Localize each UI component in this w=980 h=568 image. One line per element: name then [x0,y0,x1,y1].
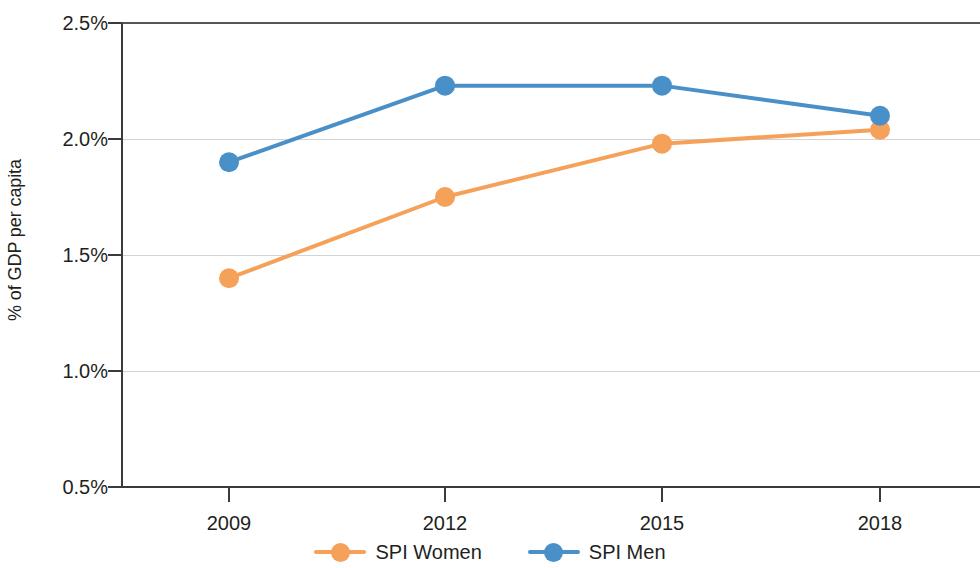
x-tick-mark [879,488,881,502]
legend-swatch-icon [314,542,366,562]
data-point-spi-women-2018 [870,120,890,140]
legend-item-spi-men[interactable]: SPI Men [528,542,666,562]
series-line-spi-men [229,86,880,163]
legend-label: SPI Women [375,542,481,562]
y-tick-mark [108,370,122,372]
data-point-spi-men-2015 [652,76,672,96]
plot-area [0,0,980,568]
y-tick-label: 1.0% [18,361,108,381]
gridline-1.5 [121,255,980,256]
legend-label: SPI Men [589,542,666,562]
gridline-2.5 [121,22,980,24]
x-tick-mark [228,488,230,502]
gridline-1.0 [121,371,980,372]
data-point-spi-men-2009 [219,152,239,172]
y-tick-label: 2.5% [18,13,108,33]
x-axis-line [121,486,980,488]
line-chart: % of GDP per capita 2.5%2.0%1.5%1.0%0.5%… [0,0,980,568]
gridline-2.0 [121,139,980,140]
data-point-spi-women-2012 [435,187,455,207]
x-tick-label: 2015 [602,513,722,533]
y-tick-label: 1.5% [18,245,108,265]
x-tick-label: 2009 [169,513,289,533]
y-tick-mark [108,22,122,24]
y-tick-mark [108,486,122,488]
x-tick-label: 2012 [385,513,505,533]
x-tick-mark [444,488,446,502]
data-point-spi-women-2009 [219,268,239,288]
y-axis-title-text: % of GDP per capita [5,159,26,321]
data-point-spi-men-2018 [870,106,890,126]
y-tick-mark [108,254,122,256]
data-point-spi-women-2015 [652,134,672,154]
data-point-spi-men-2012 [435,76,455,96]
legend-item-spi-women[interactable]: SPI Women [314,542,481,562]
chart-legend: SPI WomenSPI Men [0,536,980,568]
y-tick-mark [108,138,122,140]
y-axis-line [121,23,123,487]
y-tick-label: 2.0% [18,129,108,149]
x-tick-label: 2018 [820,513,940,533]
legend-swatch-icon [528,542,580,562]
x-tick-mark [661,488,663,502]
y-tick-label: 0.5% [18,477,108,497]
